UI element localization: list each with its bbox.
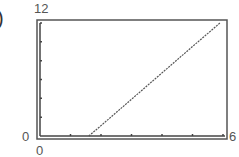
graph-line	[89, 23, 220, 136]
screen-frame	[37, 20, 227, 139]
graph-screen	[0, 0, 239, 157]
axes	[40, 23, 225, 136]
